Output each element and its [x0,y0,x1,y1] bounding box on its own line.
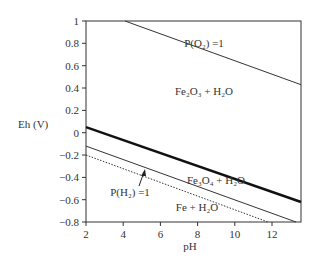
y-tick-labels: 1 0.8 0.6 0.4 0.2 0 −0.2 −0.4 −0.6 −0.8 [59,15,79,228]
svg-text:2: 2 [83,228,89,240]
po2-label: P(O₂) =1 [184,37,224,50]
svg-text:4: 4 [120,228,126,240]
fe2o3-region-label: Fe₂O₃ + H₂O [175,85,233,97]
y-axis-label: Eh (V) [18,118,49,131]
svg-text:10: 10 [229,228,241,240]
svg-text:0.6: 0.6 [65,60,79,72]
svg-text:−0.4: −0.4 [59,171,79,183]
svg-text:−0.8: −0.8 [59,216,79,228]
svg-text:0.2: 0.2 [65,104,79,116]
x-axis-label: pH [183,240,197,252]
ph2-label: P(H₂) =1 [110,186,150,199]
eh-ph-diagram: 1 0.8 0.6 0.4 0.2 0 −0.2 −0.4 −0.6 −0.8 … [0,0,316,265]
svg-text:0: 0 [74,127,80,139]
x-axis [86,222,272,226]
svg-text:6: 6 [158,228,164,240]
svg-text:0.8: 0.8 [65,37,79,49]
svg-text:−0.2: −0.2 [59,149,79,161]
svg-text:1: 1 [74,15,80,27]
fe3o4-region-label: Fe₃O₄ + H₂O [187,174,245,186]
x-tick-labels: 2 4 6 8 10 12 [83,228,277,240]
svg-text:0.4: 0.4 [65,82,79,94]
svg-text:8: 8 [195,228,201,240]
ph2-arrow-icon [139,169,146,186]
svg-text:−0.6: −0.6 [59,194,79,206]
fe-region-label: Fe + H₂O [176,201,218,213]
y-axis [82,21,86,222]
po2-line [125,21,301,85]
svg-text:12: 12 [267,228,278,240]
